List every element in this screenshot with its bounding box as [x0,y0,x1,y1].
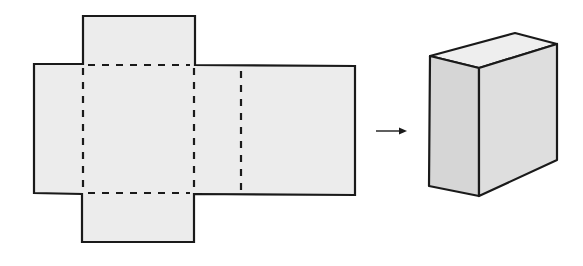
box-front-face [429,56,479,196]
arrow-icon [376,128,407,135]
box-side-face [479,44,557,196]
box [429,33,557,196]
diagram-canvas: Net of a rectangular prism folding into … [0,0,583,266]
diagram-svg [0,0,583,266]
net [34,16,355,242]
